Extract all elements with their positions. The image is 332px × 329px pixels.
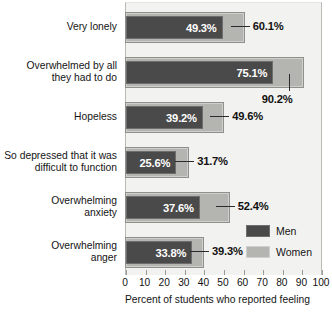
axis-tick-mark [283, 270, 284, 275]
callout-leader-line [289, 74, 291, 91]
x-tick-label: 90 [296, 277, 307, 288]
x-tick-label: 30 [178, 277, 189, 288]
bar-men: 37.6% [126, 196, 200, 219]
bar-men: 39.2% [126, 106, 203, 129]
bar-value-men: 37.6% [163, 202, 194, 214]
bar-value-women: 52.4% [238, 200, 269, 212]
legend-swatch-women-icon [246, 246, 270, 258]
callout-leader-line [210, 116, 229, 118]
bar-value-men: 75.1% [236, 67, 267, 79]
x-axis-title: Percent of students who reported feeling [125, 294, 332, 305]
x-tick-label: 0 [122, 277, 128, 288]
chart-legend: Men Women [246, 222, 312, 264]
bar-group: 37.6% [126, 193, 229, 222]
callout-leader-line [190, 251, 209, 253]
axis-tick-mark [224, 270, 225, 275]
x-tick-label: 100 [313, 277, 330, 288]
bar-value-women: 60.1% [253, 20, 284, 32]
x-tick-label: 60 [237, 277, 248, 288]
x-tick-label: 10 [139, 277, 150, 288]
bar-group: 33.8% [126, 238, 203, 267]
axis-tick-mark [322, 270, 323, 275]
callout-leader-line [231, 26, 250, 28]
bar-group: 75.1% [126, 58, 303, 87]
axis-tick-mark [185, 270, 186, 275]
x-tick-label: 80 [276, 277, 287, 288]
category-label: Very lonely [0, 21, 117, 33]
legend-swatch-men-icon [246, 225, 270, 237]
legend-item-women: Women [246, 243, 312, 260]
category-axis-labels: Very lonelyOverwhelmed by all they had t… [0, 0, 121, 277]
axis-tick-mark [302, 270, 303, 275]
bar-value-women: 31.7% [197, 155, 228, 167]
bar-value-women: 39.3% [212, 245, 243, 257]
category-label: Overwhelming anger [0, 240, 117, 264]
axis-tick-mark [204, 270, 205, 275]
axis-tick-mark [244, 270, 245, 275]
bar-value-women: 90.2% [262, 93, 293, 105]
bar-men: 33.8% [126, 241, 192, 264]
axis-tick-mark [126, 270, 127, 275]
x-tick-label: 50 [217, 277, 228, 288]
category-label: Overwhelming anxiety [0, 195, 117, 219]
bar-men: 25.6% [126, 151, 176, 174]
category-label: So depressed that it was difficult to fu… [0, 150, 117, 174]
legend-label-women: Women [276, 246, 312, 258]
bar-chart: Very lonelyOverwhelmed by all they had t… [0, 0, 332, 329]
x-tick-label: 20 [159, 277, 170, 288]
bar-value-men: 25.6% [139, 157, 170, 169]
bar-group: 49.3% [126, 13, 244, 42]
x-axis-tick-labels: 0102030405060708090100 [125, 277, 322, 291]
callout-leader-line [175, 161, 194, 163]
legend-label-men: Men [276, 225, 296, 237]
bar-men: 75.1% [126, 61, 273, 84]
x-tick-label: 40 [198, 277, 209, 288]
bar-value-women: 49.6% [232, 110, 263, 122]
bar-group: 39.2% [126, 103, 223, 132]
x-tick-label: 70 [257, 277, 268, 288]
category-label: Overwhelmed by all they had to do [0, 60, 117, 84]
axis-tick-mark [165, 270, 166, 275]
axis-tick-mark [146, 270, 147, 275]
bar-value-men: 39.2% [166, 112, 197, 124]
bar-group: 25.6% [126, 148, 188, 177]
axis-tick-mark [263, 270, 264, 275]
bar-value-men: 33.8% [156, 247, 187, 259]
category-label: Hopeless [0, 111, 117, 123]
bar-value-men: 49.3% [186, 22, 217, 34]
legend-item-men: Men [246, 222, 312, 239]
bar-men: 49.3% [126, 16, 223, 39]
callout-leader-line [216, 206, 235, 208]
